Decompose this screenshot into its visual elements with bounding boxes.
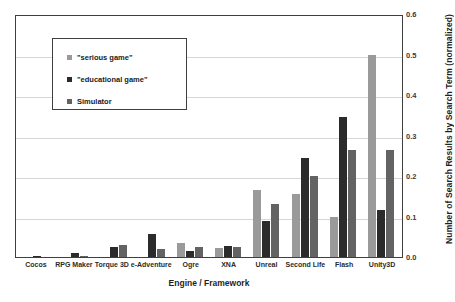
x-axis-tick-label: Ogre: [172, 261, 210, 268]
bar: [80, 256, 88, 257]
x-axis-tick-label: Flash: [325, 261, 363, 268]
bar-group: [209, 16, 247, 257]
legend-item-label: "educational game": [77, 75, 147, 84]
x-axis-tick-label: Cocos: [17, 261, 55, 268]
x-axis-tick-label: e-Adventure: [131, 261, 172, 268]
chart-legend: "serious game""educational game"Simulato…: [52, 38, 187, 110]
bar: [301, 158, 309, 257]
y-axis-tick-label: 0.0: [406, 254, 416, 262]
bar: [253, 190, 261, 257]
bar: [262, 221, 270, 257]
x-axis-tick-label: Second Life: [285, 261, 325, 268]
legend-swatch-icon: [67, 77, 72, 82]
bar: [368, 55, 376, 258]
bar: [339, 117, 347, 257]
legend-item: "serious game": [67, 46, 186, 68]
y-axis-tick-label: 0.1: [406, 214, 416, 222]
y-axis-tick-label: 0.4: [406, 92, 416, 100]
bar: [292, 194, 300, 257]
legend-item-label: "serious game": [77, 53, 132, 62]
chart-figure: 0.00.10.20.30.40.50.6 Number of Search R…: [0, 0, 455, 302]
bar: [33, 256, 41, 257]
bar: [186, 251, 194, 257]
bar: [71, 253, 79, 257]
y-axis-tick-label: 0.2: [406, 173, 416, 181]
y-axis-title: Number of Search Results by Search Term …: [442, 0, 455, 258]
x-axis-tick-label: Torque 3D: [93, 261, 131, 268]
bar-group: [247, 16, 285, 257]
y-axis-title-text: Number of Search Results by Search Term …: [444, 14, 454, 244]
legend-swatch-icon: [67, 99, 72, 104]
bar: [233, 247, 241, 257]
x-axis-title: Engine / Framework: [15, 278, 403, 288]
bar: [215, 248, 223, 257]
bar-group: [324, 16, 362, 257]
bar: [195, 247, 203, 257]
x-axis-tick-label: RPG Maker: [55, 261, 93, 268]
y-axis-tick-label: 0.3: [406, 133, 416, 141]
bar: [377, 210, 385, 257]
bar: [224, 246, 232, 257]
bar: [348, 150, 356, 257]
legend-item: Simulator: [67, 90, 186, 112]
bar-group: [285, 16, 323, 257]
x-axis-tick-label: Unreal: [248, 261, 286, 268]
bar: [386, 150, 394, 257]
legend-item: "educational game": [67, 68, 186, 90]
bar-group: [18, 16, 56, 257]
bar: [330, 217, 338, 258]
bar-group: [362, 16, 400, 257]
bar: [310, 176, 318, 257]
y-axis-tick-label: 0.6: [406, 11, 416, 19]
bar: [110, 247, 118, 257]
x-axis-tick-label: XNA: [210, 261, 248, 268]
bar: [271, 204, 279, 257]
bar: [119, 245, 127, 257]
bar: [157, 249, 165, 258]
legend-item-label: Simulator: [77, 97, 112, 106]
bar: [148, 234, 156, 257]
x-axis-tick-labels: CocosRPG MakerTorque 3De-AdventureOgreXN…: [15, 261, 403, 268]
bar: [177, 243, 185, 257]
y-axis-tick-label: 0.5: [406, 52, 416, 60]
legend-swatch-icon: [67, 55, 72, 60]
x-axis-tick-label: Unity3D: [363, 261, 401, 268]
